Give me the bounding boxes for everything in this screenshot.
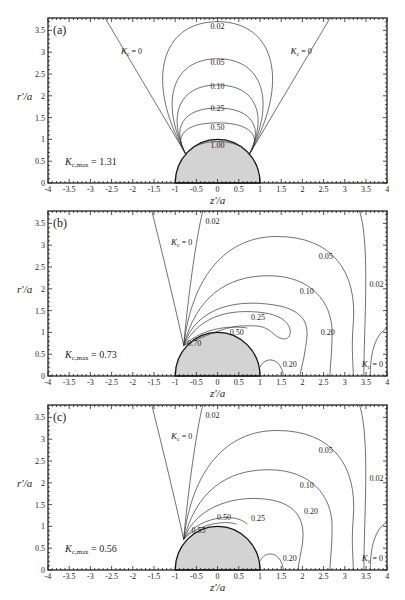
y-tick-label: 1 — [41, 328, 45, 337]
contour-label-l002r: 0.02 — [370, 280, 384, 289]
x-tick-label: -1 — [172, 572, 179, 581]
x-tick-label: -2.5 — [105, 185, 118, 194]
kc-max-annotation: Kc,max = 0.56 — [64, 543, 117, 556]
y-axis-label: r'/a — [17, 477, 33, 489]
contour-line — [184, 211, 203, 345]
x-axis-label: z'/a — [209, 387, 226, 399]
contour-line — [152, 211, 184, 345]
x-tick-label: 2 — [300, 572, 304, 581]
contour-label-l002: 0.02 — [206, 411, 220, 420]
y-tick-label: 2.5 — [35, 263, 45, 272]
x-tick-label: 1.5 — [276, 378, 286, 387]
x-tick-label: -3.5 — [63, 572, 76, 581]
contour-label-l020a: 0.20 — [321, 328, 335, 337]
y-tick-label: 3.5 — [35, 26, 45, 35]
contour-line — [105, 18, 186, 154]
x-tick-label: -2 — [129, 572, 136, 581]
y-tick-label: 3.5 — [35, 413, 45, 422]
x-tick-label: -2.5 — [105, 572, 118, 581]
x-tick-label: 0.5 — [234, 572, 244, 581]
y-tick-label: 2 — [41, 479, 45, 488]
kc-max-annotation: Kc,max = 1.31 — [64, 156, 117, 169]
x-tick-label: 2.5 — [319, 572, 329, 581]
contour-line — [152, 405, 184, 539]
x-tick-label: -0.5 — [190, 185, 203, 194]
x-tick-label: 1 — [258, 378, 262, 387]
x-axis-label: z'/a — [209, 581, 226, 593]
y-tick-label: 2.5 — [35, 457, 45, 466]
y-tick-label: 3 — [41, 435, 45, 444]
panel-label: (c) — [53, 410, 66, 424]
kc-zero-label-left: Kc = 0 — [120, 46, 142, 57]
x-tick-label: -1.5 — [148, 378, 161, 387]
contour-label-l025: 0.25 — [251, 313, 265, 322]
x-tick-label: -3 — [87, 572, 94, 581]
y-tick-label: 3 — [41, 48, 45, 57]
contour-line — [360, 405, 366, 570]
x-tick-label: -0.5 — [190, 378, 203, 387]
y-tick-label: 1.5 — [35, 307, 45, 316]
x-tick-label: -3.5 — [63, 378, 76, 387]
x-tick-label: 3.5 — [361, 378, 371, 387]
x-tick-label: 0 — [216, 378, 220, 387]
x-tick-label: -1 — [172, 185, 179, 194]
kc-zero-label-right: Kc = 0 — [361, 553, 383, 564]
y-tick-label: 3 — [41, 241, 45, 250]
contour-label-l100: 1.00 — [211, 141, 225, 150]
contour-line — [360, 211, 366, 376]
x-tick-label: 3.5 — [361, 185, 371, 194]
panel-c: 0.020.050.100.250.500.550.200.200.02Kc =… — [17, 405, 389, 593]
x-tick-label: -3.5 — [63, 185, 76, 194]
x-tick-label: 4 — [385, 185, 389, 194]
contour-label-l050: 0.50 — [217, 513, 231, 522]
y-tick-label: 2 — [41, 92, 45, 101]
x-tick-label: -1.5 — [148, 572, 161, 581]
x-axis-label: z'/a — [209, 194, 226, 206]
panel-label: (a) — [53, 23, 66, 37]
y-tick-label: 1.5 — [35, 501, 45, 510]
y-tick-label: 0.5 — [35, 544, 45, 553]
y-axis-label: r'/a — [17, 90, 33, 102]
contour-label-l002: 0.02 — [211, 22, 225, 31]
contour-label-l020b: 0.20 — [283, 554, 297, 563]
contour-label-l010: 0.10 — [211, 82, 225, 91]
contour-label-l005: 0.05 — [319, 252, 333, 261]
contour-label-l025: 0.25 — [211, 104, 225, 113]
x-tick-label: 2 — [300, 185, 304, 194]
y-axis-label: r'/a — [17, 283, 33, 295]
contour-line — [260, 360, 283, 376]
figure: 0.020.050.100.250.501.00Kc = 0Kc = 0-4-3… — [0, 0, 405, 600]
y-tick-label: 0 — [41, 179, 45, 188]
x-tick-label: 4 — [385, 572, 389, 581]
kc-zero-label-right: Kc = 0 — [361, 359, 383, 370]
x-tick-label: -2 — [129, 185, 136, 194]
x-tick-label: 1 — [258, 572, 262, 581]
contour-label-l025: 0.25 — [251, 514, 265, 523]
x-tick-label: 0 — [216, 185, 220, 194]
y-tick-label: 2.5 — [35, 70, 45, 79]
x-tick-label: 4 — [385, 378, 389, 387]
kc-max-annotation: Kc,max = 0.73 — [64, 349, 117, 362]
contour-label-l002: 0.02 — [206, 217, 220, 226]
sphere — [175, 526, 260, 570]
x-tick-label: 1.5 — [276, 572, 286, 581]
y-tick-label: 0 — [41, 566, 45, 575]
y-tick-label: 0 — [41, 372, 45, 381]
y-tick-label: 1 — [41, 135, 45, 144]
x-tick-label: 2 — [300, 378, 304, 387]
contour-label-l002r: 0.02 — [370, 474, 384, 483]
x-tick-label: -1.5 — [148, 185, 161, 194]
x-tick-label: -4 — [45, 378, 52, 387]
x-tick-label: 0.5 — [234, 378, 244, 387]
y-tick-label: 0.5 — [35, 157, 45, 166]
contour-line — [249, 18, 330, 154]
y-tick-label: 3.5 — [35, 219, 45, 228]
kc-zero-label-left: Kc = 0 — [170, 431, 192, 442]
kc-zero-label-right: Kc = 0 — [290, 46, 312, 57]
x-tick-label: -2 — [129, 378, 136, 387]
x-tick-label: -2.5 — [105, 378, 118, 387]
y-tick-label: 1 — [41, 522, 45, 531]
y-tick-label: 0.5 — [35, 350, 45, 359]
contour-label-l005: 0.05 — [319, 446, 333, 455]
y-tick-label: 1.5 — [35, 114, 45, 123]
